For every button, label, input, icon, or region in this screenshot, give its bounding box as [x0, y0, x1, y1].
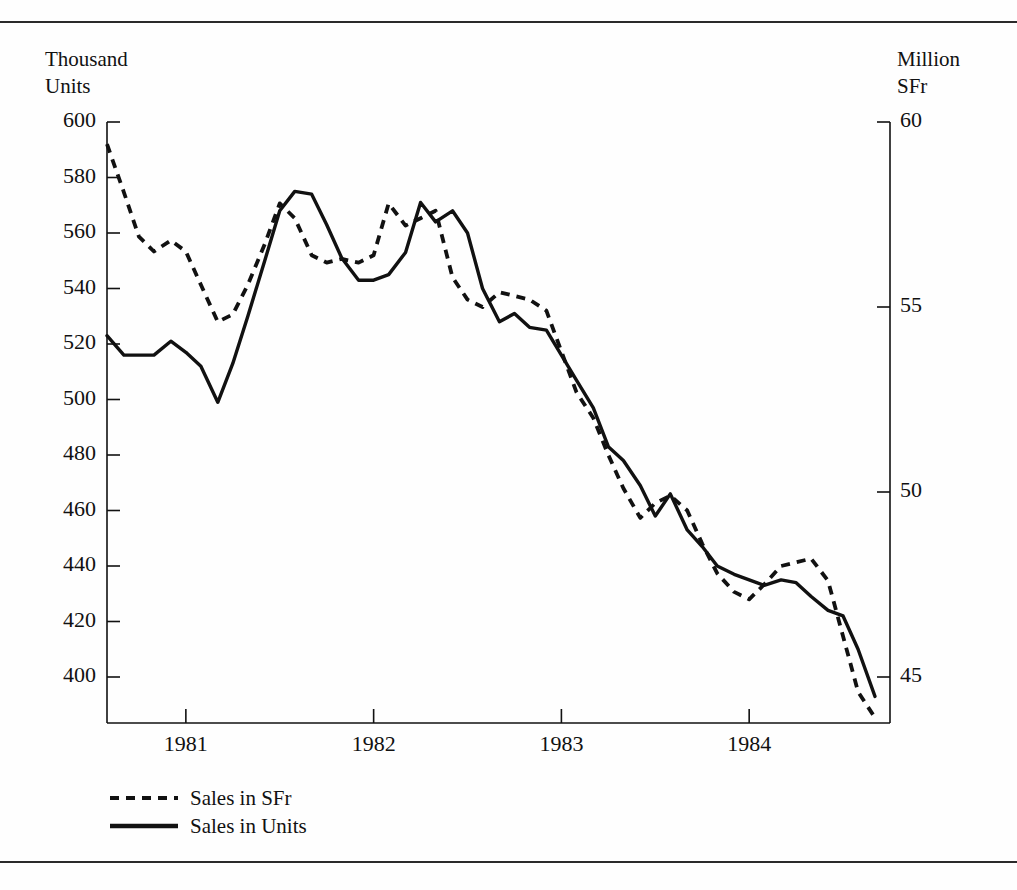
- axis-tick-label: 60: [900, 107, 962, 133]
- axis-tick-label: 580: [34, 163, 96, 189]
- legend-label-sales-in-units: Sales in Units: [190, 814, 307, 839]
- axis-tick-label: 500: [34, 385, 96, 411]
- series-line-sales-in-units: [107, 191, 875, 696]
- chart-legend: Sales in SFr Sales in Units: [108, 784, 307, 840]
- axis-tick-label: 480: [34, 440, 96, 466]
- axis-tick-label: 50: [900, 477, 962, 503]
- legend-label-sales-in-sfr: Sales in SFr: [190, 786, 292, 811]
- y2-axis-ticks: [877, 122, 890, 677]
- legend-item-sales-in-sfr: Sales in SFr: [108, 784, 307, 812]
- axis-tick-label: 45: [900, 662, 962, 688]
- axis-tick-label: 440: [34, 551, 96, 577]
- axis-tick-label: 400: [34, 662, 96, 688]
- x-axis-ticks: [186, 709, 749, 723]
- plot-frame: [107, 122, 890, 723]
- dashed-line-icon: [108, 791, 180, 805]
- axis-tick-label: 1982: [329, 731, 419, 757]
- axis-tick-label: 540: [34, 274, 96, 300]
- axis-tick-label: 600: [34, 107, 96, 133]
- legend-item-sales-in-units: Sales in Units: [108, 812, 307, 840]
- axis-tick-label: 420: [34, 607, 96, 633]
- axis-tick-label: 1981: [141, 731, 231, 757]
- solid-line-icon: [108, 819, 180, 833]
- axis-tick-label: 1983: [516, 731, 606, 757]
- axis-tick-label: 460: [34, 496, 96, 522]
- axis-tick-label: 55: [900, 292, 962, 318]
- figure-page: Thousand Units Million SFr 6005805605405…: [0, 0, 1017, 890]
- series-line-sales-in-sfr: [107, 144, 875, 718]
- axis-tick-label: 560: [34, 218, 96, 244]
- y-axis-ticks: [107, 122, 120, 677]
- axis-tick-label: 1984: [704, 731, 794, 757]
- axis-tick-label: 520: [34, 329, 96, 355]
